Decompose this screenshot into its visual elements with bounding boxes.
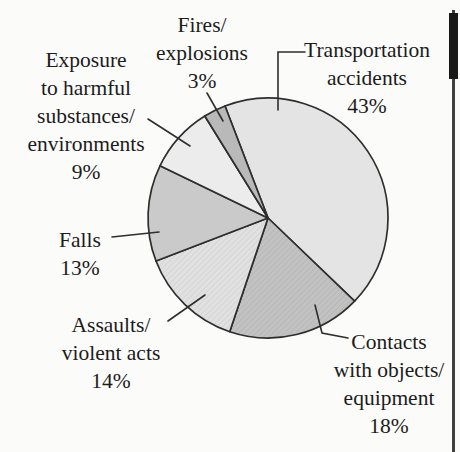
scan-edge-artifact-blob <box>449 13 458 79</box>
label-value: 13% <box>59 254 101 282</box>
label-transportation-accidents: Transportation accidents 43% <box>304 36 430 120</box>
label-line: equipment <box>334 384 444 412</box>
pie-slices <box>148 98 388 338</box>
pie-chart-figure: Fires/ explosions 3% Transportation acci… <box>0 0 460 452</box>
label-line: explosions <box>156 39 248 67</box>
label-line: substances/ <box>27 102 144 130</box>
label-falls: Falls 13% <box>59 226 101 282</box>
label-value: 43% <box>304 92 430 120</box>
label-line: Transportation <box>304 36 430 64</box>
label-line: Assaults/ <box>62 311 161 339</box>
label-value: 14% <box>62 367 161 395</box>
label-line: Falls <box>59 226 101 254</box>
label-line: accidents <box>304 64 430 92</box>
label-line: environments <box>27 130 144 158</box>
label-value: 9% <box>27 158 144 186</box>
label-value: 18% <box>334 412 444 440</box>
label-line: Exposure <box>27 46 144 74</box>
label-line: with objects/ <box>334 356 444 384</box>
label-line: violent acts <box>62 339 161 367</box>
label-fires-explosions: Fires/ explosions 3% <box>156 11 248 95</box>
label-exposure-harmful-substances: Exposure to harmful substances/ environm… <box>27 46 144 186</box>
label-assaults-violent-acts: Assaults/ violent acts 14% <box>62 311 161 395</box>
label-line: Contacts <box>334 328 444 356</box>
label-contacts-objects-equipment: Contacts with objects/ equipment 18% <box>334 328 444 440</box>
label-line: to harmful <box>27 74 144 102</box>
label-value: 3% <box>156 67 248 95</box>
label-line: Fires/ <box>156 11 248 39</box>
